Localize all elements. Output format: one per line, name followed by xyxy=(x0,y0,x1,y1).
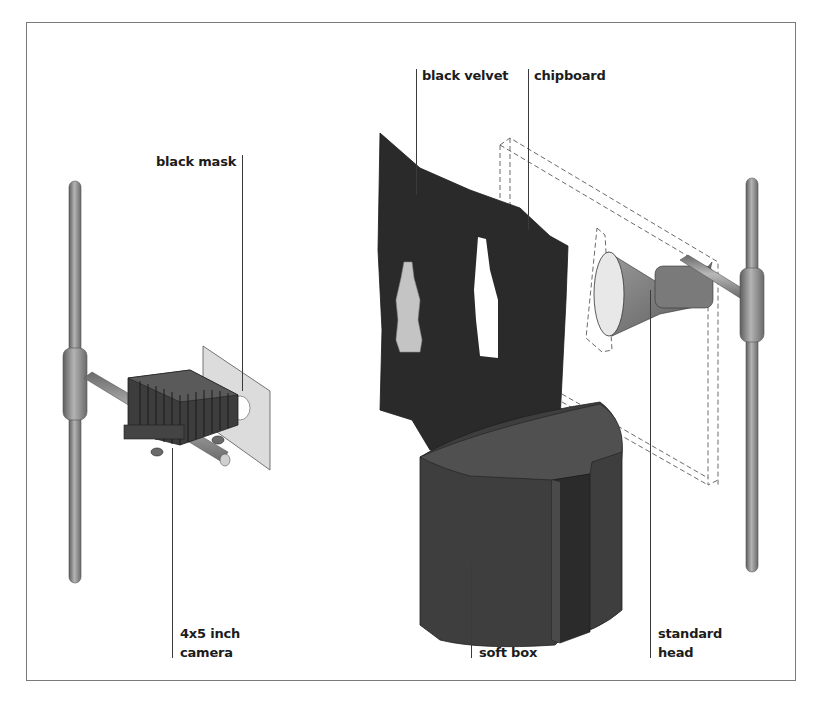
label-camera-line1: 4x5 inch xyxy=(180,624,240,643)
leader-line-camera xyxy=(172,448,173,658)
label-soft-box: soft box xyxy=(479,643,537,662)
leader-line-chipboard xyxy=(528,69,529,230)
label-black-mask: black mask xyxy=(156,152,236,171)
standard-head xyxy=(594,252,745,336)
leader-line-standard-head xyxy=(650,290,651,658)
label-camera-line2: camera xyxy=(180,643,233,662)
leader-line-black-mask xyxy=(242,155,243,391)
leader-line-soft-box xyxy=(471,565,472,658)
label-black-velvet: black velvet xyxy=(422,66,508,85)
leader-line-black-velvet xyxy=(416,69,417,195)
label-standard-head-line2: head xyxy=(658,643,693,662)
right-stand xyxy=(740,178,764,572)
lighting-setup-illustration xyxy=(0,0,816,715)
label-chipboard: chipboard xyxy=(534,66,606,85)
label-standard-head-line1: standard xyxy=(658,624,722,643)
